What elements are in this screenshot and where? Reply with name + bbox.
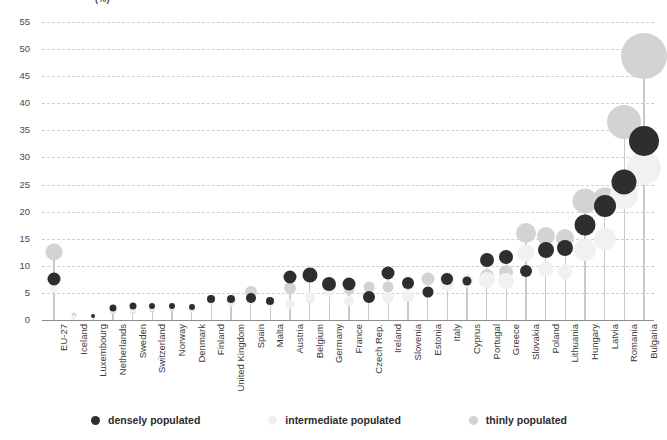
data-bubble — [518, 245, 535, 262]
y-axis-tick: 20 — [0, 206, 30, 217]
x-axis-label: Sweden — [137, 324, 148, 358]
data-bubble — [557, 240, 573, 256]
plot-area: 0510152025303540455055 — [42, 22, 654, 320]
x-axis-label: France — [353, 324, 364, 354]
y-axis-tick: 10 — [0, 260, 30, 271]
data-bubble — [480, 253, 494, 267]
data-bubble — [499, 250, 513, 264]
data-bubble — [594, 228, 616, 250]
data-bubble — [538, 242, 554, 258]
data-bubble — [207, 295, 215, 303]
y-axis-tick: 0 — [0, 314, 30, 325]
legend-label: thinly populated — [486, 414, 567, 426]
data-bubble — [284, 282, 296, 294]
data-bubble — [629, 126, 659, 156]
x-axis-label: Austria — [294, 324, 305, 354]
data-bubble — [422, 287, 433, 298]
x-axis-label: Netherlands — [117, 324, 128, 375]
data-bubble — [383, 281, 394, 292]
data-bubble — [558, 265, 573, 280]
x-axis-label: Latvia — [609, 324, 620, 349]
x-axis-label: Switzerland — [156, 324, 167, 373]
data-bubble — [516, 223, 536, 243]
data-bubble — [382, 267, 395, 280]
x-axis-label: Cyprus — [471, 324, 482, 354]
data-bubble — [612, 169, 637, 194]
legend-swatch-icon — [268, 416, 277, 425]
y-axis-tick: 55 — [0, 16, 30, 27]
gridline — [42, 185, 654, 186]
data-bubble — [48, 273, 61, 286]
legend-label: intermediate populated — [285, 414, 401, 426]
data-bubble — [594, 195, 616, 217]
gridline — [42, 103, 654, 104]
legend-label: densely populated — [108, 414, 200, 426]
data-bubble — [421, 272, 434, 285]
y-axis-tick: 35 — [0, 124, 30, 135]
y-axis-tick: 45 — [0, 70, 30, 81]
data-bubble — [383, 292, 394, 303]
x-axis-label: Spain — [255, 324, 266, 348]
data-bubble — [479, 272, 495, 288]
data-bubble — [72, 315, 76, 319]
x-axis-label: Malta — [274, 324, 285, 347]
data-bubble — [149, 303, 155, 309]
data-bubble — [344, 296, 354, 306]
x-axis-label: Romania — [628, 324, 639, 362]
gridline — [42, 49, 654, 50]
x-axis-label: Belgium — [314, 324, 325, 358]
data-bubble — [110, 305, 117, 312]
chart-legend: densely populatedintermediate populatedt… — [0, 414, 658, 426]
x-axis-label: Germany — [333, 324, 344, 363]
y-axis-tick: 30 — [0, 151, 30, 162]
y-axis-tick: 5 — [0, 287, 30, 298]
x-axis-label: Slovakia — [530, 324, 541, 360]
data-bubble — [520, 265, 532, 277]
gridline — [42, 157, 654, 158]
x-axis-label: Lithuania — [569, 324, 580, 363]
y-axis-tick: 50 — [0, 43, 30, 54]
data-bubble — [129, 302, 136, 309]
x-axis-label: Finland — [215, 324, 226, 355]
data-bubble — [343, 278, 356, 291]
gridline — [42, 130, 654, 131]
x-axis-label: Bulgaria — [648, 324, 659, 359]
legend-item[interactable]: thinly populated — [469, 414, 567, 426]
x-axis-label: United Kingdom — [235, 324, 246, 392]
y-axis-tick: 25 — [0, 179, 30, 190]
x-axis-label: Estonia — [432, 324, 443, 356]
y-axis-tick: 40 — [0, 97, 30, 108]
data-bubble — [285, 299, 295, 309]
x-axis-label: Portugal — [491, 324, 502, 359]
legend-item[interactable]: densely populated — [91, 414, 200, 426]
data-bubble — [322, 277, 336, 291]
x-axis-label: Luxembourg — [97, 324, 108, 377]
x-axis-labels: EU-27IcelandLuxembourgNetherlandsSwedenS… — [42, 322, 654, 408]
x-axis-label: Denmark — [196, 324, 207, 363]
data-bubble — [91, 314, 95, 318]
legend-item[interactable]: intermediate populated — [268, 414, 401, 426]
data-stem — [604, 200, 605, 320]
data-bubble — [46, 244, 63, 261]
data-bubble — [189, 304, 195, 310]
data-bubble — [621, 33, 667, 79]
data-bubble — [302, 267, 317, 282]
legend-swatch-icon — [469, 416, 478, 425]
gridline — [42, 212, 654, 213]
data-stem — [624, 122, 625, 320]
axis-baseline — [42, 320, 654, 321]
x-axis-label: Greece — [510, 324, 521, 355]
data-bubble — [305, 292, 315, 302]
data-bubble — [498, 273, 514, 289]
gridline — [42, 76, 654, 77]
data-bubble — [575, 214, 596, 235]
x-axis-label: Iceland — [78, 324, 89, 355]
x-axis-label: Hungary — [589, 324, 600, 360]
data-bubble — [463, 277, 472, 286]
x-axis-label: Italy — [451, 324, 462, 341]
data-bubble — [402, 277, 414, 289]
data-bubble — [246, 293, 256, 303]
data-bubble — [169, 303, 175, 309]
x-axis-label: Ireland — [392, 324, 403, 353]
